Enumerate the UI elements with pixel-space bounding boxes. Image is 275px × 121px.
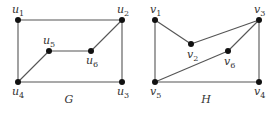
- node-label-v2: v2: [187, 48, 198, 63]
- node-label-v3: v3: [254, 3, 265, 18]
- edge-v1-v2: [155, 20, 191, 44]
- graph-caption-g: G: [65, 93, 74, 106]
- edge-u5-u4: [18, 51, 49, 82]
- node-label-v6: v6: [224, 55, 235, 70]
- edge-v3-v6: [228, 20, 259, 51]
- node-v6: [225, 48, 231, 54]
- node-label-u6: u6: [86, 54, 98, 69]
- node-label-v5: v5: [150, 85, 161, 100]
- node-label-u1: u1: [12, 3, 24, 18]
- edge-u2-u6: [91, 20, 122, 51]
- node-v2: [188, 41, 194, 47]
- node-label-u2: u2: [117, 3, 129, 18]
- graph-caption-h: H: [200, 93, 211, 106]
- node-label-u3: u3: [117, 85, 129, 100]
- graph-diagram: u1u2u3u4u5u6G v1v2v3v4v5v6H: [0, 0, 275, 121]
- node-label-u5: u5: [43, 34, 55, 49]
- node-label-u4: u4: [12, 85, 24, 100]
- graph-g: u1u2u3u4u5u6G: [12, 3, 129, 106]
- graph-h: v1v2v3v4v5v6H: [150, 3, 265, 106]
- node-label-v4: v4: [254, 85, 265, 100]
- node-label-v1: v1: [150, 3, 161, 18]
- edge-v2-v3: [191, 20, 259, 44]
